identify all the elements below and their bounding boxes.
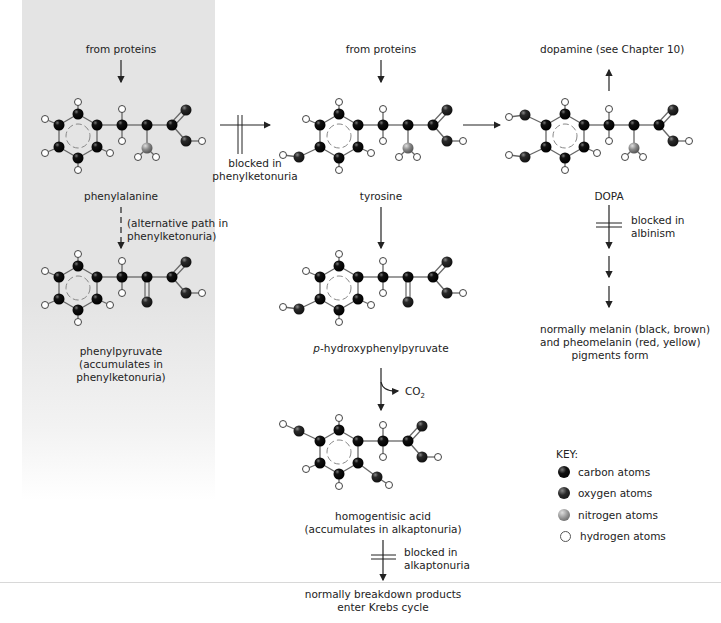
hydrogen-atom-icon (560, 531, 571, 542)
carbon-atom-icon (558, 466, 570, 478)
melanin-line-2: and pheomelanin (red, yellow) (540, 336, 680, 349)
krebs-line-1: normally breakdown products (303, 588, 463, 601)
homogentisic-line-1: homogentisic acid (303, 510, 463, 523)
alkaptonuria-block-label: blocked in alkaptonuria (404, 546, 470, 572)
homogentisic-acid-label: homogentisic acid (accumulates in alkapt… (303, 510, 463, 536)
key-item-carbon: carbon atoms (558, 466, 650, 478)
dopa-label: DOPA (559, 190, 659, 203)
hydroxyphenylpyruvate-label: p-hydroxyphenylpyruvate (306, 342, 456, 355)
arrow-phenylalanine-to-tyrosine-blocked (220, 115, 270, 154)
homogentisic-acid-molecule (280, 415, 442, 490)
tyrosine-label: tyrosine (331, 190, 431, 203)
co2-subscript: 2 (421, 392, 425, 400)
key-item-oxygen: oxygen atoms (558, 487, 652, 499)
phenylpyruvate-line-3: phenylketonuria) (66, 371, 176, 384)
arrow-decarboxylation (381, 368, 398, 410)
key-item-nitrogen: nitrogen atoms (558, 509, 658, 521)
melanin-outcome-label: normally melanin (black, brown) and pheo… (540, 323, 680, 362)
key-oxygen-label: oxygen atoms (578, 487, 652, 499)
tyrosine-molecule (280, 99, 467, 174)
key-nitrogen-label: nitrogen atoms (578, 509, 658, 521)
co2-label: CO2 (405, 385, 425, 403)
phenylalanine-source-label: from proteins (71, 43, 171, 56)
tyrosine-source-label: from proteins (331, 43, 431, 56)
phenylalanine-label: phenylalanine (71, 190, 171, 203)
hydroxyphenylpyruvate-molecule (280, 251, 467, 326)
albinism-line-1: blocked in (631, 214, 685, 227)
pku-block-line-1: blocked in (210, 157, 300, 170)
oxygen-atom-icon (558, 487, 570, 499)
krebs-outcome-label: normally breakdown products enter Krebs … (303, 588, 463, 614)
albinism-block-label: blocked in albinism (631, 214, 685, 240)
dopamine-label: dopamine (see Chapter 10) (540, 43, 680, 56)
co2-text: CO (405, 385, 421, 397)
dopa-molecule (506, 99, 693, 174)
homogentisic-line-2: (accumulates in alkaptonuria) (303, 523, 463, 536)
pku-block-line-2: phenylketonuria (210, 170, 300, 183)
phenylpyruvate-line-2: (accumulates in (66, 358, 176, 371)
hydroxyphenylpyruvate-name: -hydroxyphenylpyruvate (320, 342, 449, 354)
phenylalanine-molecule (42, 99, 206, 174)
alternative-path-label: (alternative path in phenylketonuria) (127, 217, 228, 243)
melanin-line-1: normally melanin (black, brown) (540, 323, 680, 336)
albinism-line-2: albinism (631, 227, 685, 240)
alt-path-line-1: (alternative path in (127, 217, 228, 230)
melanin-line-3: pigments form (540, 349, 680, 362)
alkaptonuria-line-2: alkaptonuria (404, 559, 470, 572)
phenylpyruvate-molecule (42, 251, 206, 326)
key-item-hydrogen: hydrogen atoms (558, 530, 666, 542)
key-hydrogen-label: hydrogen atoms (580, 530, 666, 542)
phenylpyruvate-line-1: phenylpyruvate (66, 345, 176, 358)
key-carbon-label: carbon atoms (578, 466, 650, 478)
krebs-line-2: enter Krebs cycle (303, 601, 463, 614)
nitrogen-atom-icon (558, 509, 570, 521)
arrow-dopa-to-melanin-blocked (596, 205, 622, 307)
alkaptonuria-line-1: blocked in (404, 546, 470, 559)
phenylpyruvate-label: phenylpyruvate (accumulates in phenylket… (66, 345, 176, 384)
pku-block-label: blocked in phenylketonuria (210, 157, 300, 183)
alt-path-line-2: phenylketonuria) (127, 230, 228, 243)
key-title: KEY: (556, 448, 578, 461)
arrow-homogentisic-to-krebs-blocked (371, 540, 396, 580)
